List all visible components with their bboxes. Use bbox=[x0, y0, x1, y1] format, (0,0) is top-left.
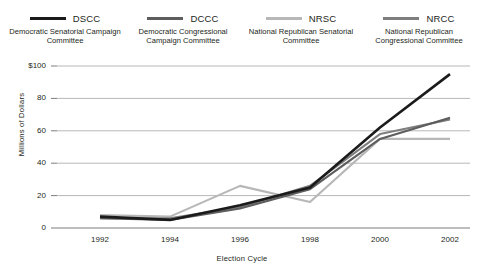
y-tick-label-100: $100 bbox=[6, 62, 46, 70]
series-line-nrsc bbox=[100, 139, 450, 217]
chart-container: DSCC Democratic Senatorial Campaign Comm… bbox=[0, 0, 484, 271]
plot-area bbox=[0, 0, 484, 271]
y-tick-label-60: 60 bbox=[6, 127, 46, 135]
x-tick-label-1998: 1998 bbox=[285, 236, 335, 244]
y-tick-label-80: 80 bbox=[6, 94, 46, 102]
y-tick-label-40: 40 bbox=[6, 159, 46, 167]
x-tick-label-1994: 1994 bbox=[145, 236, 195, 244]
x-tick-label-2000: 2000 bbox=[355, 236, 405, 244]
x-tick-label-1996: 1996 bbox=[215, 236, 265, 244]
y-tick-label-0: 0 bbox=[6, 224, 46, 232]
x-tick-label-1992: 1992 bbox=[75, 236, 125, 244]
y-tick-label-20: 20 bbox=[6, 192, 46, 200]
x-tick-label-2002: 2002 bbox=[425, 236, 475, 244]
series-line-dccc bbox=[100, 118, 450, 220]
